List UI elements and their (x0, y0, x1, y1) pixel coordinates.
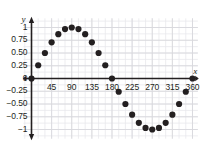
plot-area (0, 0, 210, 159)
data-point (102, 62, 108, 68)
data-point (75, 26, 81, 32)
y-tick-label: 0.75 (11, 34, 27, 44)
y-tick-label: −1 (18, 124, 28, 134)
x-tick-label: 90 (63, 82, 81, 92)
y-tick-label: −0.50 (6, 98, 27, 108)
data-point (136, 120, 142, 126)
x-tick-label: 315 (163, 82, 181, 92)
sine-scatter-chart: 10.750.500.250−0.25−0.50−0.75−1459013518… (0, 0, 210, 159)
x-tick-label: 180 (103, 82, 121, 92)
data-point (163, 120, 169, 126)
data-point (35, 62, 41, 68)
data-point (55, 31, 61, 37)
y-tick-label: −0.75 (6, 111, 27, 121)
data-point (49, 39, 55, 45)
y-axis-label: y (22, 14, 26, 24)
data-point (95, 50, 101, 56)
data-point (122, 101, 128, 107)
data-point (156, 125, 162, 131)
data-point (69, 24, 75, 30)
x-tick-label: 270 (143, 82, 161, 92)
data-point (142, 125, 148, 131)
x-tick-label: 45 (43, 82, 61, 92)
x-tick-label: 135 (83, 82, 101, 92)
data-point (129, 112, 135, 118)
data-point (89, 39, 95, 45)
data-point (42, 50, 48, 56)
y-tick-label: 0 (23, 73, 28, 83)
data-point (169, 112, 175, 118)
data-point (176, 101, 182, 107)
x-tick-label: 225 (123, 82, 141, 92)
data-point (28, 75, 34, 81)
x-tick-label: 360 (183, 82, 201, 92)
data-point (82, 31, 88, 37)
y-tick-label: 0.25 (11, 60, 27, 70)
data-point (149, 126, 155, 132)
y-tick-label: −0.25 (6, 85, 27, 95)
y-tick-label: 0.50 (11, 47, 27, 57)
x-axis-label: x (193, 66, 197, 76)
data-point (62, 26, 68, 32)
